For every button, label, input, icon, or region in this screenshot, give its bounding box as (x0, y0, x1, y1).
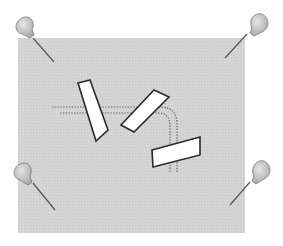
pushpin-icon (14, 163, 32, 185)
pinned-board-diagram (0, 0, 283, 246)
pushpin-icon (16, 17, 34, 38)
fabric-board (18, 38, 245, 233)
pushpin-icon (252, 161, 270, 184)
pushpin-icon (250, 14, 268, 36)
pushpin-top-right (225, 14, 268, 58)
